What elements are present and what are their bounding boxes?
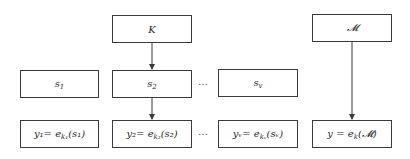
ellipsis-bottom: … — [198, 126, 209, 137]
y1-node: y₁= ek₁(s₁) — [20, 120, 99, 148]
message-node: 𝓜 — [312, 14, 392, 42]
sv-node: sv — [218, 69, 298, 97]
y2-label: y₂= ek₂(s₂) — [126, 128, 177, 141]
s1-label: s1 — [55, 78, 65, 91]
y1-label: y₁= ek₁(s₁) — [34, 128, 85, 141]
y-label: y = ek(𝓜) — [327, 128, 376, 141]
key-label: K — [148, 24, 155, 35]
key-node: K — [112, 15, 192, 43]
message-label: 𝓜 — [347, 22, 358, 34]
s1-node: s1 — [20, 70, 99, 98]
ellipsis-middle: … — [198, 76, 209, 87]
sv-label: sv — [253, 77, 262, 90]
s2-node: s2 — [112, 70, 192, 98]
y2-node: y₂= ek₂(s₂) — [112, 120, 192, 148]
s2-label: s2 — [147, 78, 157, 91]
yv-node: yᵥ= ekᵥ(sᵥ) — [218, 120, 298, 148]
y-node: y = ek(𝓜) — [312, 120, 392, 148]
yv-label: yᵥ= ekᵥ(sᵥ) — [233, 128, 283, 141]
